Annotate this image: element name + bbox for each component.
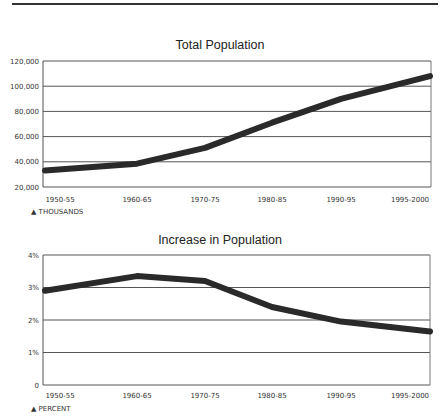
- y-tick-label: 3%: [28, 284, 39, 292]
- y-tick-label: 40,000: [15, 158, 40, 166]
- x-tick-label: 1960-65: [122, 392, 151, 400]
- x-tick-label: 1970-75: [190, 196, 219, 204]
- y-tick-label: 100,000: [10, 83, 39, 91]
- x-tick-label: 1960-65: [122, 196, 151, 204]
- data-line: [45, 76, 430, 171]
- x-tick-label: 1970-75: [190, 392, 219, 400]
- x-tick-label: 1980-85: [257, 392, 286, 400]
- x-tick-label: 1990-95: [326, 392, 355, 400]
- x-tick-label: 1990-95: [326, 196, 355, 204]
- y-tick-label: 60,000: [15, 133, 40, 141]
- y-tick-label: 4%: [28, 252, 39, 260]
- x-tick-label: 1980-85: [257, 196, 286, 204]
- x-tick-label: 1995-2000: [391, 392, 429, 400]
- x-tick-label: 1995-2000: [391, 196, 429, 204]
- unit-label-percent: ▲ PERCENT: [31, 405, 71, 413]
- x-tick-label: 1950-55: [45, 196, 74, 204]
- y-tick-label: 20,000: [15, 184, 40, 192]
- y-tick-label: 1%: [28, 349, 39, 357]
- y-tick-label: 2%: [28, 317, 39, 325]
- x-tick-label: 1950-55: [45, 392, 74, 400]
- y-tick-label: 80,000: [15, 108, 40, 116]
- data-line: [45, 276, 430, 331]
- y-tick-label: 0: [35, 382, 39, 390]
- unit-label-thousands: ▲ THOUSANDS: [31, 208, 83, 216]
- y-tick-label: 120,000: [10, 58, 39, 66]
